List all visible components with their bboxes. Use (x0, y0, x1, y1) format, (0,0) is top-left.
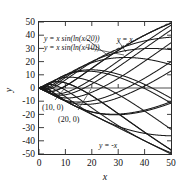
y-tick-labels: 50 40 30 20 10 0 -10 -20 -30 -40 -50 (22, 17, 35, 159)
y-tick-label: -10 (22, 96, 35, 106)
y-tick-label: 50 (26, 17, 36, 27)
x-tick-labels: 0 10 20 30 40 50 (37, 158, 176, 168)
y-tick-label: -30 (22, 123, 35, 133)
chart-svg: 50 40 30 20 10 0 -10 -20 -30 -40 -50 0 1… (0, 0, 189, 196)
label-curve-c10: y = x sin(ln(x/10)) (43, 43, 100, 52)
x-tick-label: 20 (87, 158, 97, 168)
top-axis-ticks (65, 22, 144, 26)
y-tick-label: 10 (26, 70, 36, 80)
y-tick-label: -20 (22, 110, 35, 120)
label-root-20: (20, 0) (58, 115, 80, 124)
x-tick-label: 40 (140, 158, 150, 168)
y-axis-title: y (3, 87, 14, 93)
x-tick-label: 10 (61, 158, 71, 168)
x-tick-label: 0 (37, 158, 42, 168)
y-tick-label: 30 (26, 44, 36, 54)
y-tick-label: -50 (22, 149, 35, 159)
y-tick-label: 0 (30, 83, 35, 93)
y-tick-label: 20 (26, 57, 36, 67)
label-lower-envelope: y = -x (98, 141, 118, 150)
x-tick-label: 30 (113, 158, 123, 168)
figure-container: 50 40 30 20 10 0 -10 -20 -30 -40 -50 0 1… (0, 0, 189, 196)
y-tick-label: 40 (26, 30, 36, 40)
label-curve-c20: y = x sin(ln(x/20)) (43, 34, 100, 43)
x-axis-title: x (102, 171, 108, 182)
label-upper-envelope: y = x (116, 35, 133, 44)
y-tick-label: -40 (22, 136, 35, 146)
label-root-10: (10, 0) (42, 103, 64, 112)
x-tick-label: 50 (166, 158, 176, 168)
